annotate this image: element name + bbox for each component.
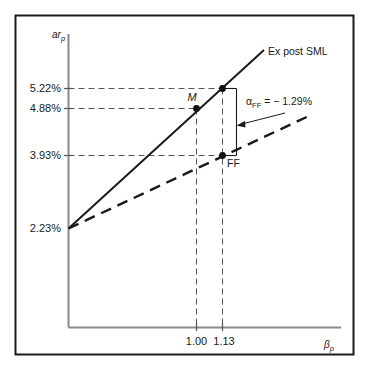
chart-figure: arp βp 5.22% 4.88% 3.93% 2.23% 1.00 1.13… xyxy=(0,0,368,370)
data-point-ff[interactable] xyxy=(219,152,226,159)
x-tick-label-1: 1.13 xyxy=(213,335,234,347)
sml-series-label: Ex post SML xyxy=(268,45,328,57)
x-tick-label-0: 1.00 xyxy=(186,335,207,347)
y-tick-label-2: 3.93% xyxy=(30,149,61,161)
ex-post-sml-chart: arp βp 5.22% 4.88% 3.93% 2.23% 1.00 1.13… xyxy=(0,0,368,370)
y-tick-label-3: 2.23% xyxy=(30,222,61,234)
point-label-m: M xyxy=(187,91,197,103)
data-point-m[interactable] xyxy=(193,105,200,112)
point-label-ff: FF xyxy=(227,157,240,169)
data-point-sml-113[interactable] xyxy=(219,85,226,92)
y-tick-label-0: 5.22% xyxy=(30,82,61,94)
y-tick-label-1: 4.88% xyxy=(30,102,61,114)
